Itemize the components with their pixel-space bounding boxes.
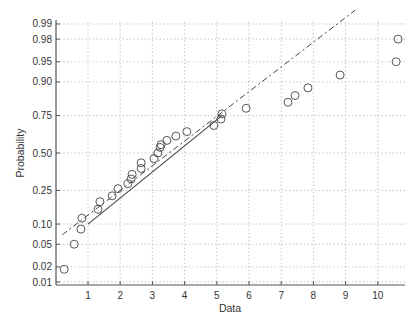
normal-probability-plot: 0.010.020.050.100.250.500.750.900.950.98… (0, 0, 420, 328)
data-point-marker (94, 205, 102, 213)
data-point-marker (128, 170, 136, 178)
data-point-marker (218, 110, 226, 118)
reference-line-dashed (62, 10, 355, 235)
y-axis-label: Probability (14, 128, 26, 178)
data-point-marker (291, 92, 299, 100)
data-point-marker (163, 136, 171, 144)
y-tick-label: 0.02 (33, 261, 53, 272)
x-axis-label: Data (219, 302, 241, 314)
reference-line (62, 10, 355, 235)
x-tick-label: 10 (372, 290, 384, 301)
y-tick-label: 0.50 (33, 148, 53, 159)
data-point-marker (108, 192, 116, 200)
y-tick-label: 0.10 (33, 219, 53, 230)
x-tick-label: 3 (150, 290, 156, 301)
x-tick-label: 4 (182, 290, 188, 301)
data-point-marker (78, 214, 86, 222)
x-axis-ticks: 12345678910 (85, 281, 384, 301)
data-point-marker (336, 71, 344, 79)
x-tick-label: 1 (85, 290, 91, 301)
x-tick-label: 8 (311, 290, 317, 301)
data-point-marker (284, 98, 292, 106)
x-tick-label: 9 (343, 290, 349, 301)
x-tick-label: 7 (278, 290, 284, 301)
y-tick-label: 0.98 (33, 34, 53, 45)
y-tick-label: 0.25 (33, 185, 53, 196)
y-tick-label: 0.95 (33, 56, 53, 67)
data-point-marker (304, 84, 312, 92)
axes (56, 20, 405, 285)
y-tick-label: 0.05 (33, 239, 53, 250)
y-tick-label: 0.90 (33, 76, 53, 87)
x-tick-label: 6 (246, 290, 252, 301)
x-tick-label: 5 (214, 290, 220, 301)
data-point-marker (150, 155, 158, 163)
data-point-marker (157, 141, 165, 149)
data-point-marker (172, 132, 180, 140)
data-point-marker (114, 185, 122, 193)
y-tick-label: 0.75 (33, 110, 53, 121)
data-points (60, 35, 402, 273)
reference-line-solid (88, 116, 222, 224)
data-point-marker (60, 265, 68, 273)
x-tick-label: 2 (117, 290, 123, 301)
data-point-marker (77, 225, 85, 233)
y-tick-label: 0.99 (33, 18, 53, 29)
grid-lines (56, 22, 405, 285)
data-point-marker (96, 198, 104, 206)
data-point-marker (183, 128, 191, 136)
data-point-marker (137, 159, 145, 167)
y-tick-label: 0.01 (33, 277, 53, 288)
